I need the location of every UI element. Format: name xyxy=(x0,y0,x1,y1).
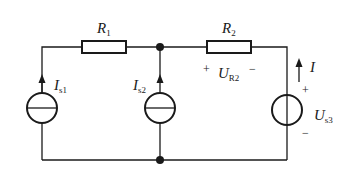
svg-text:Is2: Is2 xyxy=(132,77,146,95)
node-top xyxy=(156,43,164,51)
voltage-source-us3: + Us3 − xyxy=(272,83,333,140)
arrow-up-icon xyxy=(157,74,164,83)
arrow-up-icon xyxy=(296,58,303,67)
current-source-is1: Is1 xyxy=(27,74,67,123)
current-arrow-i: I xyxy=(296,58,317,82)
svg-text:Is1: Is1 xyxy=(53,77,67,95)
arrow-up-icon xyxy=(39,74,46,83)
svg-text:+: + xyxy=(302,83,309,97)
current-source-is2: Is2 xyxy=(132,74,175,123)
circuit-diagram: R1 R2 + UR2 − Is1 Is2 + Us3 − I xyxy=(0,0,354,177)
voltage-label-ur2: + UR2 − xyxy=(203,62,256,83)
svg-text:R1: R1 xyxy=(96,20,111,38)
svg-text:UR2: UR2 xyxy=(218,65,239,83)
svg-text:−: − xyxy=(302,126,309,140)
node-bottom xyxy=(156,156,164,164)
svg-text:R2: R2 xyxy=(221,20,236,38)
wire-right-top xyxy=(251,47,287,95)
resistor-r2: R2 xyxy=(207,20,251,53)
svg-text:I: I xyxy=(309,59,316,75)
svg-text:−: − xyxy=(249,62,256,76)
svg-text:+: + xyxy=(203,62,210,76)
resistor-r1: R1 xyxy=(82,20,126,53)
svg-text:Us3: Us3 xyxy=(314,107,333,125)
